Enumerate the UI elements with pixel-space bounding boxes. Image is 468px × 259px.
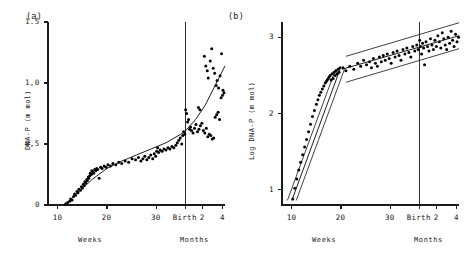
- data-point: [313, 109, 316, 112]
- panel-b-fit-lines: [292, 36, 459, 201]
- data-point: [192, 132, 195, 135]
- data-point: [403, 53, 406, 56]
- data-point: [204, 64, 207, 67]
- data-point: [407, 51, 410, 54]
- tick-label: 20: [336, 213, 346, 222]
- data-point: [376, 65, 379, 68]
- data-point: [299, 161, 302, 164]
- confidence-band: [346, 49, 459, 83]
- data-point: [134, 158, 137, 161]
- data-point: [172, 146, 175, 149]
- data-point: [425, 40, 428, 43]
- data-point: [183, 133, 186, 136]
- tick-label: 10: [287, 213, 297, 222]
- data-point: [441, 31, 444, 34]
- data-point: [315, 103, 318, 106]
- tick-label: 1.5: [25, 17, 39, 26]
- data-point: [98, 177, 101, 180]
- data-point: [316, 98, 319, 101]
- data-point: [209, 134, 212, 137]
- data-point: [185, 112, 188, 115]
- data-point: [218, 118, 221, 121]
- data-point: [390, 62, 393, 65]
- data-point: [120, 162, 123, 165]
- tick-label: 1,0: [25, 78, 39, 87]
- data-point: [207, 77, 210, 80]
- data-point: [295, 178, 298, 181]
- data-point: [417, 48, 420, 51]
- tick-label: 2: [269, 109, 274, 118]
- panel-a-fit-curve: [65, 66, 225, 205]
- data-point: [422, 46, 425, 49]
- data-point: [429, 37, 432, 40]
- data-point: [139, 160, 142, 163]
- data-point: [456, 40, 459, 43]
- tick-label: 0,5: [25, 139, 39, 148]
- regression-line: [292, 69, 340, 200]
- tick-label: 4: [454, 213, 459, 222]
- tick-label: 30: [385, 213, 395, 222]
- data-point: [217, 86, 220, 89]
- data-point: [209, 60, 212, 63]
- data-point: [203, 55, 206, 58]
- panel-b-axes: [278, 22, 459, 209]
- data-point: [420, 53, 423, 56]
- data-point: [423, 63, 426, 66]
- data-point: [436, 34, 439, 37]
- data-point: [428, 49, 431, 52]
- data-point: [184, 108, 187, 111]
- tick-label: 3: [269, 32, 274, 41]
- data-point: [96, 168, 99, 171]
- confidence-band: [346, 23, 459, 57]
- data-point: [200, 122, 203, 125]
- data-point: [386, 53, 389, 56]
- panel-a-weeks-label: Weeks: [78, 236, 102, 244]
- data-point: [212, 136, 215, 139]
- data-point: [384, 59, 387, 62]
- data-point: [127, 161, 130, 164]
- tick-label: 0: [35, 200, 40, 209]
- data-point: [399, 59, 402, 62]
- tick-label: Birth: [407, 213, 431, 222]
- data-point: [401, 48, 404, 51]
- data-point: [318, 94, 321, 97]
- data-point: [432, 48, 435, 51]
- data-point: [415, 43, 418, 46]
- data-point: [203, 132, 206, 135]
- data-point: [210, 47, 213, 50]
- data-point: [396, 49, 399, 52]
- tick-label: 10: [53, 213, 63, 222]
- data-point: [213, 72, 216, 75]
- panel-b: (b) Log DNA-P (m mol) 123 102030Birth24 …: [234, 0, 468, 259]
- data-point: [362, 59, 365, 62]
- data-point: [137, 156, 140, 159]
- panel-b-data-points: [291, 30, 460, 201]
- confidence-band: [296, 69, 344, 200]
- data-point: [418, 39, 421, 42]
- confidence-band: [287, 69, 335, 200]
- data-point: [180, 143, 183, 146]
- data-point: [444, 43, 447, 46]
- data-point: [92, 172, 95, 175]
- tick-label: Birth: [173, 213, 197, 222]
- data-point: [220, 52, 223, 55]
- data-point: [297, 168, 300, 171]
- data-point: [454, 33, 457, 36]
- data-point: [222, 89, 225, 92]
- data-point: [311, 115, 314, 118]
- data-point: [143, 155, 146, 158]
- panel-a: (a) DNA-P (m mol) 00,51,01.5 102030Birth…: [0, 0, 234, 259]
- data-point: [193, 127, 196, 130]
- panel-b-weeks-label: Weeks: [312, 236, 336, 244]
- data-point: [382, 54, 385, 57]
- data-point: [344, 69, 347, 72]
- data-point: [435, 45, 438, 48]
- data-point: [398, 54, 401, 57]
- data-point: [217, 111, 220, 114]
- data-point: [448, 42, 451, 45]
- data-point: [151, 157, 154, 160]
- data-point: [145, 158, 148, 161]
- tick-label: 30: [151, 213, 161, 222]
- tick-label: 1: [269, 185, 274, 194]
- panel-a-months-label: Months: [180, 236, 209, 244]
